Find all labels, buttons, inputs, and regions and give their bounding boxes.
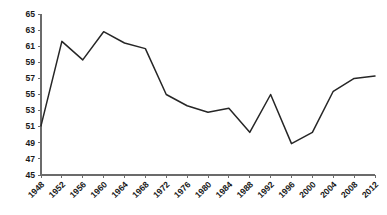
y-tick-label: 53 — [25, 105, 35, 115]
x-tick-label: 2000 — [297, 179, 318, 200]
x-tick-label: 2008 — [339, 179, 360, 200]
x-tick-label: 2004 — [318, 179, 339, 200]
x-tick-label: 1980 — [193, 179, 214, 200]
y-tick-label: 63 — [25, 25, 35, 35]
x-tick-label: 1992 — [255, 179, 276, 200]
y-tick-label: 57 — [25, 73, 35, 83]
y-tick-label: 47 — [25, 154, 35, 164]
x-tick-label: 1956 — [68, 179, 89, 200]
y-tick-label: 49 — [25, 138, 35, 148]
x-tick-label: 1968 — [130, 179, 151, 200]
plot-area — [41, 32, 375, 144]
x-tick-label: 1964 — [109, 179, 130, 200]
x-tick-label: 1976 — [172, 179, 193, 200]
x-tick-label: 1948 — [26, 179, 47, 200]
y-axis: 4547495153555759616365 — [25, 9, 41, 180]
x-tick-group: 1948195219561960196419681972197619801984… — [26, 175, 381, 200]
chart-canvas: 4547495153555759616365 19481952195619601… — [0, 0, 387, 215]
y-tick-group: 4547495153555759616365 — [25, 9, 41, 180]
x-tick-label: 1988 — [235, 179, 256, 200]
y-tick-label: 65 — [25, 9, 35, 19]
y-tick-label: 59 — [25, 57, 35, 67]
y-tick-label: 45 — [25, 170, 35, 180]
x-tick-label: 1952 — [47, 179, 68, 200]
y-tick-label: 51 — [25, 121, 35, 131]
x-tick-label: 2012 — [360, 179, 381, 200]
y-tick-label: 61 — [25, 41, 35, 51]
x-axis: 1948195219561960196419681972197619801984… — [26, 175, 381, 200]
x-tick-label: 1972 — [151, 179, 172, 200]
y-tick-label: 55 — [25, 89, 35, 99]
series-line-path — [41, 32, 375, 144]
x-tick-label: 1960 — [88, 179, 109, 200]
x-tick-label: 1996 — [276, 179, 297, 200]
line-chart: 4547495153555759616365 19481952195619601… — [0, 0, 387, 215]
x-tick-label: 1984 — [214, 179, 235, 200]
